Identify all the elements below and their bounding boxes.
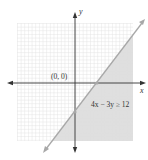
y-axis-down-arrow-icon <box>73 147 77 153</box>
inequality-graph: y x (0, 0) 4x − 3y ≥ 12 <box>0 0 148 160</box>
origin-label: (0, 0) <box>51 72 68 81</box>
x-axis-left-arrow-icon <box>7 81 13 85</box>
y-intercept-point <box>73 110 76 113</box>
boundary-line-top-arrow-icon <box>139 19 145 25</box>
inequality-label: 4x − 3y ≥ 12 <box>91 100 130 109</box>
x-axis-right-arrow-icon <box>140 81 146 85</box>
x-axis-label: x <box>139 86 144 95</box>
x-intercept-point <box>95 81 98 84</box>
y-axis-up-arrow-icon <box>73 12 77 18</box>
y-axis-label: y <box>78 7 83 16</box>
